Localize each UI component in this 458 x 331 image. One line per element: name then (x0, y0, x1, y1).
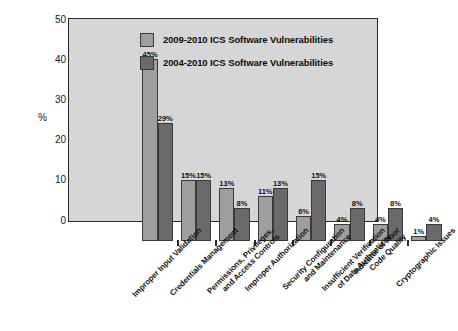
bar-value-label: 1% (413, 227, 424, 236)
y-axis-tick-label: 0 (44, 216, 66, 226)
legend-item-1: 2004-2010 ICS Software Vulnerabilities (140, 54, 370, 71)
bar-series-1: 4% (426, 224, 441, 240)
x-axis-tick-mark (254, 240, 256, 246)
bar-value-label: 15% (196, 171, 211, 180)
bar-value-label: 8% (237, 199, 248, 208)
bar-value-label: 15% (311, 171, 326, 180)
bar-value-label: 4% (375, 215, 386, 224)
bar-value-label: 15% (181, 171, 196, 180)
bar-series-1: 8% (388, 208, 403, 240)
bar-series-1: 29% (158, 123, 173, 240)
bar-series-0: 6% (296, 216, 311, 240)
x-axis-tick-mark (177, 240, 179, 246)
bar-series-0: 1% (411, 236, 426, 240)
bar-series-1: 8% (350, 208, 365, 240)
y-axis-tick-label: 10 (44, 175, 66, 185)
bar-series-0: 4% (334, 224, 349, 240)
bar-series-1: 15% (311, 180, 326, 241)
bar-value-label: 13% (219, 179, 234, 188)
y-axis-tick-label: 40 (44, 55, 66, 65)
bar-group: 1%4% (407, 39, 445, 241)
x-axis-tick-mark (215, 240, 217, 246)
bar-value-label: 4% (428, 215, 439, 224)
bar-group: 4%8% (369, 39, 407, 241)
bar-value-label: 6% (298, 207, 309, 216)
bar-series-1: 15% (196, 180, 211, 241)
bar-series-1: 8% (234, 208, 249, 240)
y-axis-tick-labels: 01020304050 (44, 18, 66, 222)
bar-value-label: 8% (352, 199, 363, 208)
bar-value-label: 8% (390, 199, 401, 208)
bar-series-0: 45% (142, 59, 157, 241)
x-axis-tick-mark (369, 240, 371, 246)
y-axis-tick-label: 50 (44, 15, 66, 25)
y-axis-tick-label: 30 (44, 95, 66, 105)
bar-series-1: 13% (273, 188, 288, 241)
bar-series-0: 13% (219, 188, 234, 241)
bar-series-0: 11% (258, 196, 273, 240)
legend-label-series-1: 2004-2010 ICS Software Vulnerabilities (163, 57, 333, 68)
y-axis-tick-label: 20 (44, 135, 66, 145)
bar-value-label: 13% (273, 179, 288, 188)
bar-value-label: 4% (337, 215, 348, 224)
x-axis-tick-mark (330, 240, 332, 246)
legend-label-series-0: 2009-2010 ICS Software Vulnerabilities (163, 34, 333, 45)
bar-series-0: 4% (373, 224, 388, 240)
x-axis-tick-mark (292, 240, 294, 246)
legend-item-0: 2009-2010 ICS Software Vulnerabilities (140, 31, 370, 48)
legend: 2009-2010 ICS Software Vulnerabilities 2… (140, 31, 370, 77)
x-axis-tick-mark (407, 240, 409, 246)
bar-value-label: 11% (258, 187, 273, 196)
bar-series-0: 15% (181, 180, 196, 241)
legend-swatch-icon-series-1 (140, 56, 154, 70)
bar-value-label: 29% (158, 114, 173, 123)
legend-swatch-icon-series-0 (140, 33, 154, 47)
